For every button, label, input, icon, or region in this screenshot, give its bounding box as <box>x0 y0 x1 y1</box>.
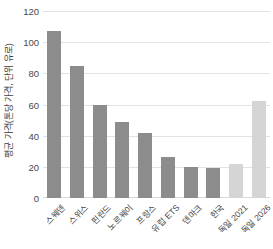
y-axis-tick-label: 20 <box>28 161 39 172</box>
bar <box>161 157 175 198</box>
y-axis-tick-label: 80 <box>28 68 39 79</box>
bar <box>70 66 84 198</box>
y-axis-title: 평균 가격(톤당 가격, 단위 유로) <box>0 0 16 200</box>
y-axis-tick-label: 60 <box>28 99 39 110</box>
x-axis-tick-label: 덴마크 <box>179 201 204 226</box>
bars-layer <box>43 11 270 198</box>
x-axis-tick-label: 스웨덴 <box>42 201 67 226</box>
y-axis-title-text: 평균 가격(톤당 가격, 단위 유로) <box>2 43 15 158</box>
bar <box>115 122 129 198</box>
y-axis-tick-label: 100 <box>23 37 39 48</box>
bar <box>47 31 61 198</box>
x-axis-tick-labels: 스웨덴스위스핀란드노르웨이프랑스유럽 ETS덴마크한국독일 2021독일 202… <box>43 199 270 249</box>
bar <box>206 168 220 198</box>
bar-chart: 평균 가격(톤당 가격, 단위 유로) 020406080100120 스웨덴스… <box>0 0 273 249</box>
y-axis-tick-label: 40 <box>28 130 39 141</box>
y-axis-tick-label: 0 <box>34 193 39 204</box>
y-axis-tick-labels: 020406080100120 <box>16 0 42 210</box>
plot-area <box>43 11 270 198</box>
x-axis-tick-label: 스위스 <box>65 201 90 226</box>
y-axis-tick-label: 120 <box>23 6 39 17</box>
bar <box>184 167 198 198</box>
bar <box>93 105 107 199</box>
bar <box>138 133 152 198</box>
bar <box>229 164 243 198</box>
bar <box>252 101 266 198</box>
